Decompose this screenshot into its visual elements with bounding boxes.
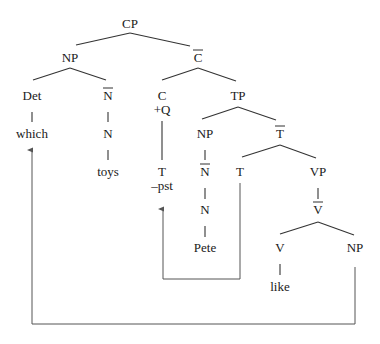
node-t-bar: T (276, 126, 284, 141)
node-t-trace: T (236, 164, 244, 179)
branch-cp-cbar (130, 33, 190, 46)
node-c-feature: +Q (154, 102, 171, 117)
branch-tp-tbar (238, 107, 276, 120)
branch-vbar-np (318, 222, 354, 235)
node-like: like (270, 279, 290, 294)
branch-cbar-tp (198, 68, 236, 81)
node-n-bar-subj: N (200, 164, 210, 179)
node-which: which (16, 126, 48, 141)
node-n-bar-obj: N (103, 88, 113, 103)
syntax-tree: CP NP C Det N C +Q TP which N NP T toys … (0, 0, 380, 344)
branch-vbar-v (280, 222, 318, 234)
branch-np-det (33, 68, 70, 80)
node-vp: VP (310, 164, 327, 179)
branch-tbar-t (242, 145, 280, 157)
node-pete: Pete (194, 240, 217, 255)
movement-arrows (32, 150, 355, 324)
node-n-obj: N (103, 126, 113, 141)
branch-cp-np (76, 33, 130, 45)
arrow-wh-movement (32, 150, 355, 324)
node-n-subj: N (200, 202, 210, 217)
arrow-t-to-c (163, 183, 240, 279)
node-v-head: V (275, 240, 285, 255)
node-v-bar: V (313, 202, 323, 217)
node-np-subj: NP (197, 126, 214, 141)
node-labels: CP NP C Det N C +Q TP which N NP T toys … (16, 16, 363, 294)
node-cp: CP (122, 16, 138, 31)
node-t-moved: T (158, 164, 166, 179)
node-t-feature: –pst (150, 178, 173, 193)
branch-np-nbar (70, 68, 106, 80)
tree-branches (32, 33, 354, 275)
node-tp: TP (230, 88, 245, 103)
node-np-obj: NP (347, 240, 364, 255)
branch-cbar-c (162, 68, 198, 80)
node-np-spec: NP (62, 50, 79, 65)
branch-tp-np (202, 107, 238, 119)
node-det: Det (23, 88, 42, 103)
branch-tbar-vp (280, 145, 316, 158)
node-c-head: C (158, 88, 167, 103)
node-c-bar: C (194, 50, 203, 65)
node-toys: toys (97, 164, 119, 179)
